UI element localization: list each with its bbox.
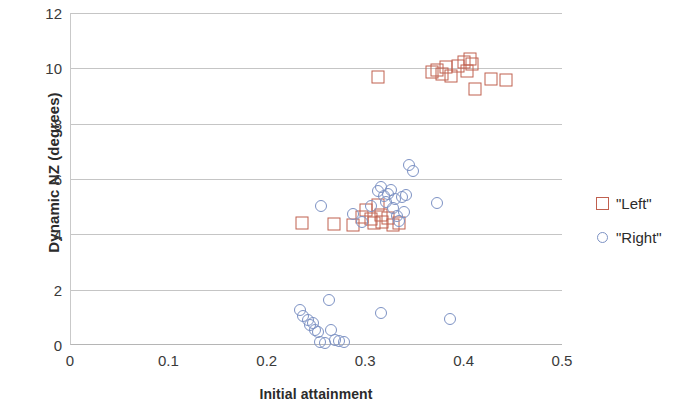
data-point-right	[319, 337, 331, 349]
data-point-left	[372, 71, 385, 84]
y-tick-label: 6	[22, 171, 62, 188]
data-point-left	[485, 72, 498, 85]
legend-item-right[interactable]: "Right"	[596, 220, 684, 254]
gridline-y-4	[71, 234, 562, 235]
x-axis-title: Initial attainment	[70, 386, 562, 402]
data-point-left	[392, 217, 405, 230]
data-point-left	[360, 203, 373, 216]
y-tick-label: 4	[22, 226, 62, 243]
data-point-right	[323, 294, 335, 306]
data-point-right	[312, 326, 324, 338]
y-tick-label: 12	[22, 5, 62, 22]
data-point-left	[356, 211, 369, 224]
legend-circle-marker-icon	[597, 232, 608, 243]
data-point-right	[307, 317, 319, 329]
legend-square-marker-icon	[596, 197, 609, 210]
data-point-right	[356, 216, 368, 228]
gridline-y-6	[71, 179, 562, 180]
data-point-right	[294, 304, 306, 316]
data-point-right	[398, 206, 410, 218]
data-point-right	[325, 324, 337, 336]
data-point-left	[426, 65, 439, 78]
data-point-right	[375, 181, 387, 193]
data-point-left	[375, 215, 388, 228]
legend-label-right: "Right"	[616, 229, 662, 246]
data-point-left	[469, 83, 482, 96]
y-tick-label: 8	[22, 115, 62, 132]
data-point-left	[439, 60, 452, 73]
x-tick-label: 0.1	[138, 352, 198, 369]
y-tick-label: 10	[22, 60, 62, 77]
data-point-left	[347, 218, 360, 231]
y-tick-label: 2	[22, 281, 62, 298]
data-point-left	[463, 52, 476, 65]
data-point-right	[444, 313, 456, 325]
data-point-left	[435, 68, 448, 81]
data-point-right	[304, 319, 316, 331]
legend-label-left: "Left"	[616, 195, 652, 212]
gridline-y-8	[71, 124, 562, 125]
data-point-right	[391, 210, 403, 222]
data-point-right	[375, 307, 387, 319]
data-point-left	[381, 211, 394, 224]
x-tick-label: 0.4	[434, 352, 494, 369]
data-point-right	[387, 202, 399, 214]
data-point-left	[386, 218, 399, 231]
data-point-right	[333, 335, 345, 347]
data-point-left	[365, 213, 378, 226]
scatter-chart: Dynamic NZ (degrees) 024681012 00.10.20.…	[0, 0, 684, 411]
data-point-right	[400, 189, 412, 201]
data-point-right	[431, 197, 443, 209]
data-point-left	[372, 199, 385, 212]
data-point-right	[385, 184, 397, 196]
data-point-left	[451, 60, 464, 73]
data-point-right	[403, 159, 415, 171]
data-point-left	[368, 217, 381, 230]
gridline-y-10	[71, 68, 562, 69]
x-tick-label: 0	[40, 352, 100, 369]
x-tick-label: 0.3	[335, 352, 395, 369]
data-point-left	[374, 208, 387, 221]
data-point-right	[393, 215, 405, 227]
data-point-left	[499, 73, 512, 86]
x-tick-label: 0.2	[237, 352, 297, 369]
data-point-right	[302, 314, 314, 326]
data-point-right	[338, 336, 350, 348]
data-point-left	[444, 70, 457, 83]
data-point-right	[365, 200, 377, 212]
data-point-right	[407, 165, 419, 177]
data-point-right	[309, 324, 321, 336]
legend-item-left[interactable]: "Left"	[596, 186, 684, 220]
data-point-left	[327, 217, 340, 230]
data-point-right	[380, 196, 392, 208]
data-point-right	[389, 193, 401, 205]
data-point-left	[431, 63, 444, 76]
gridline-y-12	[71, 13, 562, 14]
y-tick-label: 0	[22, 337, 62, 354]
data-point-right	[297, 310, 309, 322]
data-point-right	[396, 191, 408, 203]
data-point-right	[315, 200, 327, 212]
data-point-right	[314, 336, 326, 348]
plot-area	[70, 13, 562, 345]
data-point-right	[382, 188, 394, 200]
data-point-right	[347, 208, 359, 220]
data-point-right	[372, 185, 384, 197]
data-point-right	[378, 190, 390, 202]
data-point-right	[329, 334, 341, 346]
chart-legend: "Left" "Right"	[596, 186, 684, 254]
data-point-left	[296, 216, 309, 229]
gridline-y-2	[71, 290, 562, 291]
data-point-left	[457, 56, 470, 69]
x-tick-label: 0.5	[532, 352, 592, 369]
data-point-left	[460, 64, 473, 77]
